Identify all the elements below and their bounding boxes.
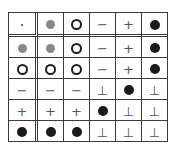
- up-tack-icon: ⊥: [149, 83, 160, 98]
- up-tack-icon: ⊥: [97, 125, 108, 140]
- black-filled-circle-icon: [150, 43, 160, 53]
- minus-icon: −: [97, 41, 108, 56]
- table-body: −+−+−+−−−⊥⊥+++⊥⊥⊥⊥⊥: [8, 12, 168, 142]
- table-cell: [64, 37, 90, 58]
- plus-icon: +: [123, 62, 134, 77]
- header-cell: [38, 12, 64, 37]
- table-row: −+: [8, 58, 168, 79]
- small-dot-icon: [21, 24, 23, 26]
- open-circle-icon: [71, 43, 82, 54]
- table-row: −+: [8, 37, 168, 58]
- table-cell: +: [38, 100, 64, 121]
- minus-icon: −: [97, 62, 108, 77]
- plus-icon: +: [123, 17, 134, 32]
- header-cell: +: [116, 12, 142, 37]
- black-filled-circle-icon: [17, 127, 27, 137]
- table-cell: +: [116, 37, 142, 58]
- gray-filled-circle-icon: [46, 20, 55, 29]
- table-cell: ⊥: [116, 100, 142, 121]
- table-cell: −: [38, 79, 64, 100]
- header-cell: [142, 12, 168, 37]
- table-cell: ⊥: [142, 79, 168, 100]
- header-row: −+: [8, 12, 168, 37]
- table-cell: [64, 58, 90, 79]
- up-tack-icon: ⊥: [149, 104, 160, 119]
- gray-filled-circle-icon: [46, 44, 55, 53]
- table-row: −−−⊥⊥: [8, 79, 168, 100]
- table-cell: ⊥: [142, 121, 168, 142]
- header-cell: [8, 12, 38, 37]
- table-cell: ⊥: [142, 100, 168, 121]
- table-cell: [90, 100, 116, 121]
- open-circle-icon: [17, 64, 28, 75]
- table-cell: ⊥: [90, 79, 116, 100]
- table-cell: −: [64, 79, 90, 100]
- table-cell: ⊥: [90, 121, 116, 142]
- table-cell: −: [90, 37, 116, 58]
- table-cell: [142, 58, 168, 79]
- header-cell: [64, 12, 90, 37]
- minus-icon: −: [97, 17, 108, 32]
- gray-filled-circle-icon: [18, 44, 27, 53]
- plus-icon: +: [71, 104, 82, 119]
- table-cell: [116, 79, 142, 100]
- table-cell: +: [116, 58, 142, 79]
- black-filled-circle-icon: [124, 85, 134, 95]
- up-tack-icon: ⊥: [149, 125, 160, 140]
- header-cell: [8, 121, 38, 142]
- operation-table-container: −+−+−+−−−⊥⊥+++⊥⊥⊥⊥⊥: [8, 12, 168, 142]
- table-cell: −: [90, 58, 116, 79]
- table-cell: +: [64, 100, 90, 121]
- table-row: ⊥⊥⊥: [8, 121, 168, 142]
- up-tack-icon: ⊥: [123, 104, 134, 119]
- minus-icon: −: [17, 83, 28, 98]
- black-filled-circle-icon: [150, 20, 160, 30]
- plus-icon: +: [123, 41, 134, 56]
- minus-icon: −: [45, 83, 56, 98]
- plus-icon: +: [45, 104, 56, 119]
- header-cell: [8, 58, 38, 79]
- table-cell: [64, 121, 90, 142]
- up-tack-icon: ⊥: [97, 83, 108, 98]
- header-cell: [8, 37, 38, 58]
- black-filled-circle-icon: [150, 64, 160, 74]
- table-cell: [38, 121, 64, 142]
- table-cell: [38, 37, 64, 58]
- header-cell: −: [90, 12, 116, 37]
- table-row: +++⊥⊥: [8, 100, 168, 121]
- header-cell: +: [8, 100, 38, 121]
- operation-table: −+−+−+−−−⊥⊥+++⊥⊥⊥⊥⊥: [8, 12, 168, 142]
- black-filled-circle-icon: [98, 106, 108, 116]
- table-cell: [142, 37, 168, 58]
- minus-icon: −: [71, 83, 82, 98]
- open-circle-icon: [71, 64, 82, 75]
- table-cell: ⊥: [116, 121, 142, 142]
- up-tack-icon: ⊥: [123, 125, 134, 140]
- black-filled-circle-icon: [72, 127, 82, 137]
- table-cell: [38, 58, 64, 79]
- open-circle-icon: [45, 64, 56, 75]
- plus-icon: +: [17, 104, 28, 119]
- open-circle-icon: [71, 19, 82, 30]
- header-cell: −: [8, 79, 38, 100]
- black-filled-circle-icon: [46, 127, 56, 137]
